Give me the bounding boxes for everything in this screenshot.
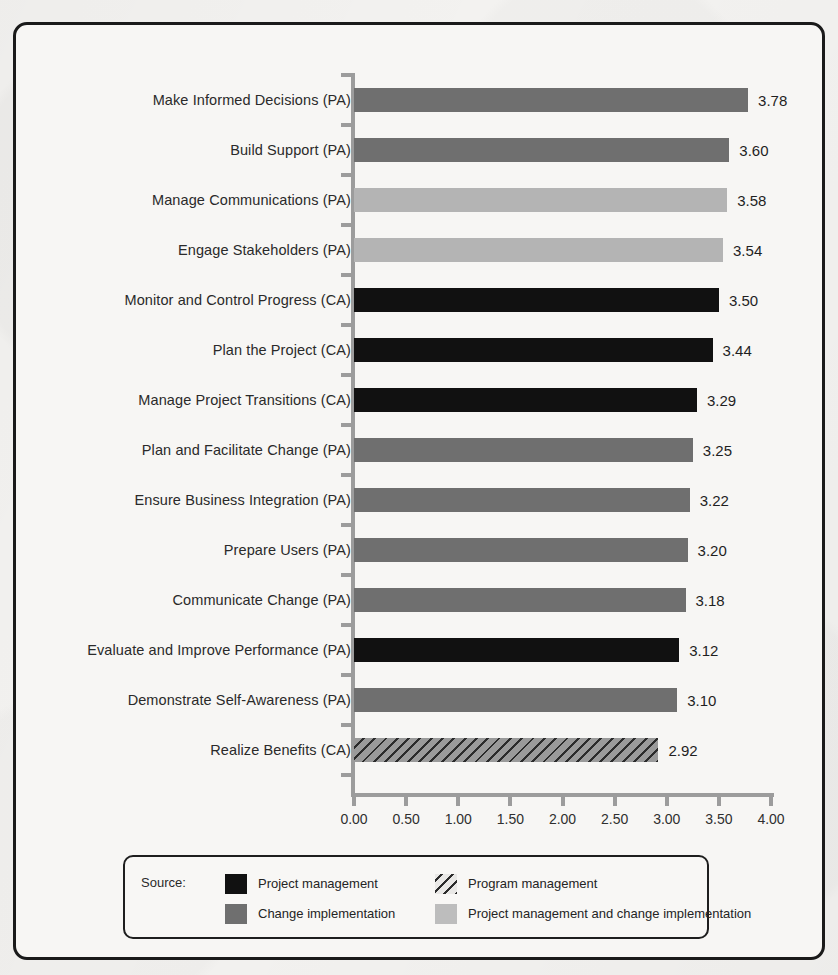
x-axis-tick	[665, 796, 669, 806]
x-axis-tick	[613, 796, 617, 806]
y-axis-tick	[341, 773, 352, 777]
legend-swatch-program	[435, 874, 457, 894]
bar-row: Engage Stakeholders (PA)3.54	[16, 225, 828, 275]
y-axis-tick	[341, 673, 352, 677]
y-axis-tick	[341, 723, 352, 727]
bar	[354, 538, 688, 562]
category-label: Plan and Facilitate Change (PA)	[142, 442, 351, 458]
bar	[354, 138, 729, 162]
legend-label: Project management	[258, 876, 378, 891]
bar-row: Evaluate and Improve Performance (PA)3.1…	[16, 625, 828, 675]
x-axis-tick-label: 2.00	[549, 811, 576, 827]
bar-value-label: 3.60	[739, 142, 768, 159]
bar-value-label: 3.54	[733, 242, 762, 259]
bar-value-label: 2.92	[668, 742, 697, 759]
legend-label: Program management	[468, 876, 597, 891]
scanned-page: Make Informed Decisions (PA)3.78Build Su…	[0, 0, 838, 975]
bar-chart-plot-area: Make Informed Decisions (PA)3.78Build Su…	[16, 25, 828, 963]
legend-label: Change implementation	[258, 906, 395, 921]
bar-row: Manage Communications (PA)3.58	[16, 175, 828, 225]
bar-row: Monitor and Control Progress (CA)3.50	[16, 275, 828, 325]
y-axis-tick	[341, 523, 352, 527]
bar-value-label: 3.25	[703, 442, 732, 459]
legend-swatch-both	[435, 904, 457, 924]
y-axis-tick	[341, 173, 352, 177]
x-axis-tick	[561, 796, 565, 806]
bar	[354, 588, 686, 612]
x-axis-tick-label: 0.50	[393, 811, 420, 827]
bar-value-label: 3.78	[758, 92, 787, 109]
bar-row: Plan and Facilitate Change (PA)3.25	[16, 425, 828, 475]
bar-value-label: 3.58	[737, 192, 766, 209]
bar-value-label: 3.29	[707, 392, 736, 409]
category-label: Plan the Project (CA)	[213, 342, 351, 358]
bar	[354, 388, 697, 412]
y-axis-tick	[341, 73, 352, 77]
bar-value-label: 3.50	[729, 292, 758, 309]
category-label: Build Support (PA)	[230, 142, 351, 158]
category-label: Engage Stakeholders (PA)	[178, 242, 351, 258]
legend-swatch-change	[225, 904, 247, 924]
x-axis-tick-label: 2.50	[601, 811, 628, 827]
y-axis-tick	[341, 323, 352, 327]
category-label: Make Informed Decisions (PA)	[153, 92, 351, 108]
category-label: Ensure Business Integration (PA)	[134, 492, 351, 508]
x-axis-tick-label: 1.00	[445, 811, 472, 827]
category-label: Evaluate and Improve Performance (PA)	[87, 642, 351, 658]
bar	[354, 688, 677, 712]
category-label: Manage Communications (PA)	[152, 192, 351, 208]
bar-value-label: 3.10	[687, 692, 716, 709]
bar-row: Ensure Business Integration (PA)3.22	[16, 475, 828, 525]
bar-row: Build Support (PA)3.60	[16, 125, 828, 175]
bar	[354, 488, 690, 512]
bar-row: Manage Project Transitions (CA)3.29	[16, 375, 828, 425]
y-axis-tick	[341, 423, 352, 427]
y-axis-tick	[341, 273, 352, 277]
bar-row: Demonstrate Self-Awareness (PA)3.10	[16, 675, 828, 725]
bar	[354, 188, 727, 212]
x-axis-tick	[508, 796, 512, 806]
x-axis-tick-label: 3.50	[705, 811, 732, 827]
legend-source-label: Source:	[141, 875, 186, 890]
bar-row: Prepare Users (PA)3.20	[16, 525, 828, 575]
y-axis-tick	[341, 623, 352, 627]
y-axis-tick	[341, 123, 352, 127]
bar	[354, 338, 713, 362]
bar-row: Realize Benefits (CA)2.92	[16, 725, 828, 775]
legend-label: Project management and change implementa…	[468, 906, 751, 921]
bar-value-label: 3.12	[689, 642, 718, 659]
category-label: Communicate Change (PA)	[172, 592, 351, 608]
bar	[354, 88, 748, 112]
bar-row: Communicate Change (PA)3.18	[16, 575, 828, 625]
bar	[354, 288, 719, 312]
bar-row: Make Informed Decisions (PA)3.78	[16, 75, 828, 125]
chart-legend: Source: Project managementProgram manage…	[123, 855, 709, 939]
bar-row: Plan the Project (CA)3.44	[16, 325, 828, 375]
category-label: Demonstrate Self-Awareness (PA)	[128, 692, 351, 708]
category-label: Manage Project Transitions (CA)	[138, 392, 351, 408]
category-label: Prepare Users (PA)	[224, 542, 351, 558]
x-axis-tick-label: 1.50	[497, 811, 524, 827]
x-axis-tick	[456, 796, 460, 806]
category-label: Monitor and Control Progress (CA)	[124, 292, 351, 308]
category-label: Realize Benefits (CA)	[210, 742, 351, 758]
legend-swatch-project	[225, 874, 247, 894]
x-axis-tick-label: 4.00	[757, 811, 784, 827]
x-axis-tick	[717, 796, 721, 806]
bar	[354, 738, 658, 762]
x-axis-tick	[404, 796, 408, 806]
x-axis-tick-label: 3.00	[653, 811, 680, 827]
figure-frame: Make Informed Decisions (PA)3.78Build Su…	[13, 22, 825, 960]
y-axis-tick	[341, 473, 352, 477]
x-axis-tick-label: 0.00	[340, 811, 367, 827]
bar	[354, 438, 693, 462]
bar-value-label: 3.20	[698, 542, 727, 559]
bar	[354, 238, 723, 262]
y-axis-tick	[341, 573, 352, 577]
x-axis-tick	[352, 796, 356, 806]
y-axis-tick	[341, 223, 352, 227]
bar-value-label: 3.22	[700, 492, 729, 509]
x-axis-tick	[769, 796, 773, 806]
bar-value-label: 3.44	[723, 342, 752, 359]
bar	[354, 638, 679, 662]
